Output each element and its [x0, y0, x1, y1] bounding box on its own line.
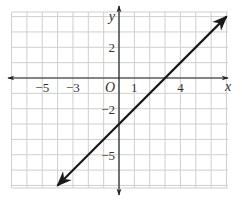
y-tick-label: 2	[109, 40, 116, 55]
y-axis-label: y	[107, 9, 116, 24]
y-tick-label: −2	[101, 102, 115, 117]
y-tick-label: −5	[101, 148, 115, 163]
x-tick-label: 4	[177, 80, 184, 95]
line-y-equals-x-minus-3	[58, 17, 227, 186]
axes	[8, 6, 228, 195]
coordinate-plane: −5−3142−2−5Oxy	[0, 0, 242, 203]
plotted-line	[58, 17, 227, 186]
x-axis-label: x	[224, 79, 232, 94]
x-tick-label: −5	[35, 80, 49, 95]
origin-label: O	[105, 80, 115, 95]
x-tick-label: −3	[66, 80, 80, 95]
grid-lines	[12, 12, 228, 188]
x-tick-label: 1	[131, 80, 138, 95]
